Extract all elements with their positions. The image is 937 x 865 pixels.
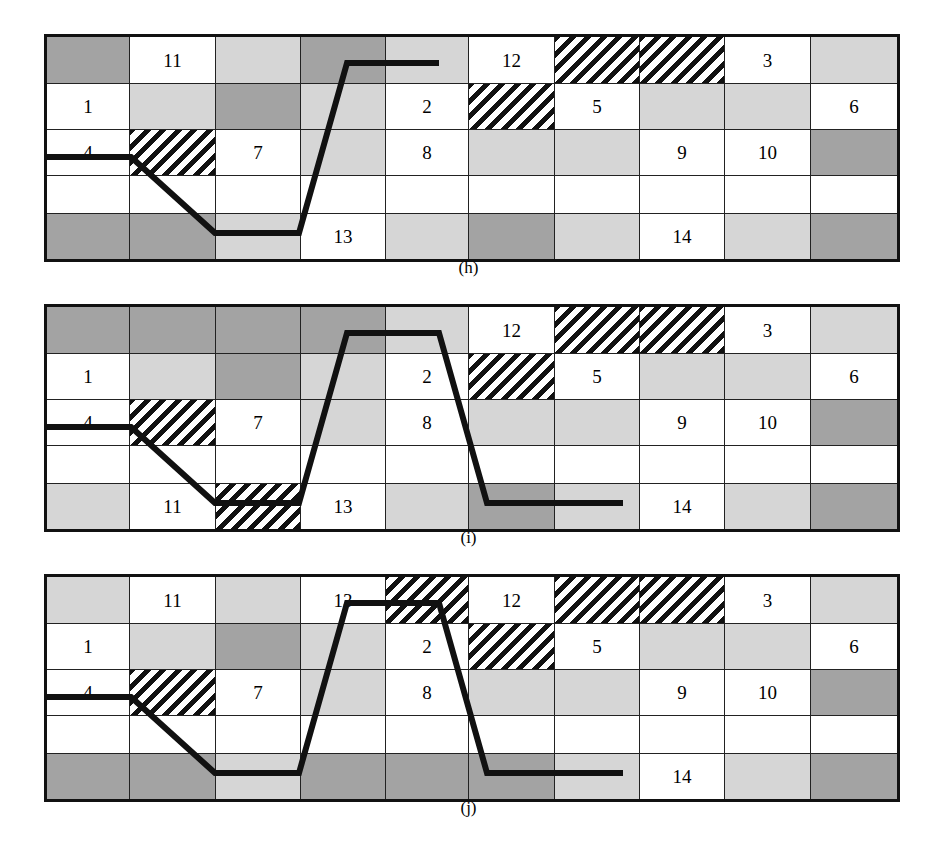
- cell-label: 14: [673, 227, 692, 246]
- cell-r2-c5: 2: [386, 354, 469, 400]
- cell-r5-c4: 13: [301, 484, 386, 529]
- cell-r5-c2: [130, 214, 216, 259]
- cell-label: 9: [677, 413, 687, 432]
- cell-r2-c8: [640, 624, 725, 670]
- cell-label: 2: [422, 97, 432, 116]
- cell-r5-c1: [47, 214, 130, 259]
- cell-r2-c6: [469, 354, 555, 400]
- cell-r4-c5: [386, 446, 469, 484]
- cell-r4-c6: [469, 716, 555, 754]
- cell-r3-c3: 7: [216, 400, 301, 446]
- cell-r2-c8: [640, 354, 725, 400]
- panel-j-grid-border: 1113123125647891014: [44, 574, 900, 802]
- cell-r1-c8: [640, 307, 725, 354]
- cell-r4-c9: [725, 446, 811, 484]
- cell-r4-c3: [216, 716, 301, 754]
- cell-r2-c2: [130, 354, 216, 400]
- cell-r1-c4: [301, 37, 386, 84]
- cell-r2-c3: [216, 624, 301, 670]
- cell-r2-c1: 1: [47, 84, 130, 130]
- cell-r1-c7: [555, 577, 640, 624]
- cell-r5-c5: [386, 214, 469, 259]
- cell-r5-c7: [555, 484, 640, 529]
- cell-label: 12: [502, 321, 521, 340]
- cell-r4-c4: [301, 716, 386, 754]
- cell-r3-c7: [555, 670, 640, 716]
- cell-label: 8: [422, 683, 432, 702]
- cell-r4-c8: [640, 446, 725, 484]
- cell-label: 3: [763, 51, 773, 70]
- figure-sheet: 1112312564789101314 (h) 1231256478910111…: [0, 0, 937, 865]
- cell-r3-c4: [301, 670, 386, 716]
- cell-r5-c9: [725, 214, 811, 259]
- cell-label: 1: [83, 97, 93, 116]
- cell-label: 12: [502, 591, 521, 610]
- cell-r5-c10: [811, 754, 897, 799]
- cell-r1-c9: 3: [725, 307, 811, 354]
- cell-label: 9: [677, 683, 687, 702]
- panel-i-caption: (i): [0, 528, 937, 548]
- cell-r2-c6: [469, 624, 555, 670]
- cell-label: 5: [592, 637, 602, 656]
- cell-r4-c9: [725, 716, 811, 754]
- cell-r1-c9: 3: [725, 577, 811, 624]
- panel-h-caption: (h): [0, 258, 937, 278]
- cell-label: 5: [592, 367, 602, 386]
- cell-r2-c1: 1: [47, 354, 130, 400]
- cell-r1-c3: [216, 577, 301, 624]
- cell-r2-c9: [725, 354, 811, 400]
- cell-r1-c7: [555, 307, 640, 354]
- cell-r1-c8: [640, 37, 725, 84]
- panel-h-grid-border: 1112312564789101314: [44, 34, 900, 262]
- cell-r3-c10: [811, 130, 897, 176]
- cell-r3-c9: 10: [725, 130, 811, 176]
- cell-r1-c6: 12: [469, 307, 555, 354]
- cell-r3-c1: 4: [47, 400, 130, 446]
- cell-r3-c1: 4: [47, 670, 130, 716]
- cell-r3-c8: 9: [640, 130, 725, 176]
- cell-r1-c7: [555, 37, 640, 84]
- cell-r2-c4: [301, 84, 386, 130]
- cell-r1-c2: 11: [130, 37, 216, 84]
- cell-r5-c4: 13: [301, 214, 386, 259]
- cell-r3-c9: 10: [725, 400, 811, 446]
- cell-r2-c3: [216, 84, 301, 130]
- cell-r5-c1: [47, 484, 130, 529]
- cell-r3-c7: [555, 400, 640, 446]
- cell-r3-c4: [301, 130, 386, 176]
- cell-r3-c5: 8: [386, 400, 469, 446]
- cell-r1-c9: 3: [725, 37, 811, 84]
- cell-r2-c1: 1: [47, 624, 130, 670]
- cell-r5-c5: [386, 484, 469, 529]
- cell-r1-c1: [47, 37, 130, 84]
- cell-r5-c9: [725, 754, 811, 799]
- cell-r1-c10: [811, 37, 897, 84]
- cell-r1-c4: 13: [301, 577, 386, 624]
- cell-r3-c5: 8: [386, 670, 469, 716]
- cell-r4-c3: [216, 446, 301, 484]
- panel-i-grid: 1231256478910111314: [47, 307, 897, 529]
- cell-r3-c5: 8: [386, 130, 469, 176]
- cell-r3-c2: [130, 130, 216, 176]
- cell-r2-c9: [725, 624, 811, 670]
- cell-r2-c4: [301, 354, 386, 400]
- cell-r4-c10: [811, 446, 897, 484]
- cell-label: 12: [502, 51, 521, 70]
- cell-r3-c10: [811, 400, 897, 446]
- cell-r3-c6: [469, 400, 555, 446]
- cell-label: 6: [849, 367, 859, 386]
- cell-r1-c1: [47, 307, 130, 354]
- cell-r3-c8: 9: [640, 670, 725, 716]
- cell-r5-c2: [130, 754, 216, 799]
- cell-r5-c6: [469, 214, 555, 259]
- cell-r1-c6: 12: [469, 577, 555, 624]
- cell-r4-c1: [47, 716, 130, 754]
- cell-r1-c5: [386, 577, 469, 624]
- cell-r5-c3: [216, 484, 301, 529]
- panel-i-grid-border: 1231256478910111314: [44, 304, 900, 532]
- cell-r2-c9: [725, 84, 811, 130]
- cell-r2-c4: [301, 624, 386, 670]
- cell-r3-c2: [130, 400, 216, 446]
- cell-r1-c3: [216, 307, 301, 354]
- cell-r1-c10: [811, 307, 897, 354]
